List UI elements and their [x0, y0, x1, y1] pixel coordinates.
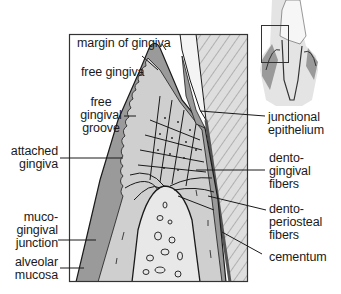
label-dentoperiosteal-fibers: dento- periosteal fibers: [269, 203, 322, 242]
label-mucogingival-junction: muco- gingival junction: [4, 211, 58, 250]
label-attached-gingiva: attached gingiva: [4, 145, 58, 171]
inset-tooth: [260, 0, 318, 106]
label-cementum: cementum: [269, 251, 327, 264]
gingiva-diagram: margin of gingiva free gingiva free ging…: [0, 0, 341, 294]
label-margin-of-gingiva: margin of gingiva: [77, 37, 171, 50]
label-free-gingival-groove: free gingival groove: [78, 96, 124, 135]
label-free-gingiva: free gingiva: [81, 66, 144, 79]
label-junctional-epithelium: junctional epithelium: [268, 111, 324, 137]
label-dentogingival-fibers: dento- gingival fibers: [269, 152, 311, 191]
label-alveolar-mucosa: alveolar mucosa: [4, 256, 58, 282]
